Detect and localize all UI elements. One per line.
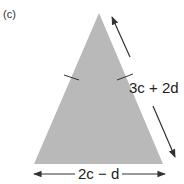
side-length-label: 3c + 2d [129,80,179,96]
base-length-label: 2c − d [75,166,122,182]
